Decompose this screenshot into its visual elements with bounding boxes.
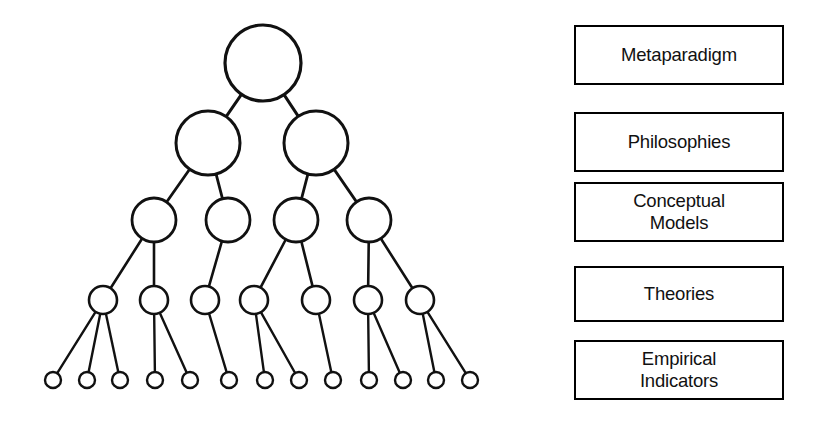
tree-node-n4l[interactable] xyxy=(428,372,444,388)
tree-edge xyxy=(226,94,241,116)
tree-edge xyxy=(160,313,187,373)
tree-node-n4h[interactable] xyxy=(291,372,307,388)
tree-edge xyxy=(374,313,400,373)
tree-node-n4c[interactable] xyxy=(112,372,128,388)
tree-edge xyxy=(302,174,308,199)
tree-node-n4k[interactable] xyxy=(395,372,411,388)
tree-node-n3d[interactable] xyxy=(240,286,268,314)
tree-node-n2b[interactable] xyxy=(206,198,250,242)
hierarchy-tree-svg xyxy=(0,0,520,434)
level-box-theories-label: Theories xyxy=(638,283,720,305)
tree-node-n4g[interactable] xyxy=(257,372,273,388)
tree-edge xyxy=(209,313,227,372)
level-labels-panel: Metaparadigm Philosophies Conceptual Mod… xyxy=(574,0,786,434)
tree-node-n4i[interactable] xyxy=(325,372,341,388)
level-box-philosophies[interactable]: Philosophies xyxy=(574,112,784,172)
tree-node-n3e[interactable] xyxy=(302,286,330,314)
tree-edge xyxy=(106,314,118,372)
tree-node-n3c[interactable] xyxy=(191,286,219,314)
tree-node-n3b[interactable] xyxy=(140,286,168,314)
tree-node-n1b[interactable] xyxy=(284,111,348,175)
tree-node-n4e[interactable] xyxy=(182,372,198,388)
tree-node-n0[interactable] xyxy=(225,25,301,101)
level-box-philosophies-label: Philosophies xyxy=(622,131,737,153)
tree-node-n4b[interactable] xyxy=(79,372,95,388)
tree-node-n4a[interactable] xyxy=(45,372,61,388)
level-box-conceptual-models-label: Conceptual Models xyxy=(627,190,731,234)
tree-node-n4m[interactable] xyxy=(462,372,478,388)
tree-edge xyxy=(284,95,298,117)
level-box-empirical-indicators-label: Empirical Indicators xyxy=(634,348,724,392)
tree-edge xyxy=(381,239,413,289)
tree-edge xyxy=(334,169,356,202)
tree-edge xyxy=(256,314,264,372)
tree-node-n3a[interactable] xyxy=(89,286,117,314)
tree-edge xyxy=(111,239,143,289)
level-box-metaparadigm-label: Metaparadigm xyxy=(615,44,743,66)
tree-edge xyxy=(154,314,155,372)
tree-node-n4f[interactable] xyxy=(221,372,237,388)
tree-node-n2a[interactable] xyxy=(132,198,176,242)
tree-node-n1a[interactable] xyxy=(176,111,240,175)
level-box-theories[interactable]: Theories xyxy=(574,266,784,322)
tree-node-n3f[interactable] xyxy=(354,286,382,314)
tree-edge xyxy=(216,174,222,199)
hierarchy-tree-panel xyxy=(0,0,520,434)
level-box-conceptual-models[interactable]: Conceptual Models xyxy=(574,182,784,242)
tree-edge xyxy=(167,169,190,202)
tree-node-n4j[interactable] xyxy=(361,372,377,388)
tree-node-n2c[interactable] xyxy=(274,198,318,242)
tree-edge-layer xyxy=(57,94,466,373)
tree-edge xyxy=(261,312,295,373)
tree-edge xyxy=(301,241,312,286)
tree-node-n4d[interactable] xyxy=(147,372,163,388)
tree-node-n3g[interactable] xyxy=(406,286,434,314)
tree-edge xyxy=(209,241,222,286)
tree-node-n2d[interactable] xyxy=(347,198,391,242)
tree-edge xyxy=(368,242,369,286)
tree-edge xyxy=(368,314,369,372)
tree-edge xyxy=(261,239,286,287)
level-box-empirical-indicators[interactable]: Empirical Indicators xyxy=(574,340,784,400)
tree-edge xyxy=(319,314,331,372)
level-box-metaparadigm[interactable]: Metaparadigm xyxy=(574,25,784,85)
diagram-canvas: Metaparadigm Philosophies Conceptual Mod… xyxy=(0,0,826,434)
